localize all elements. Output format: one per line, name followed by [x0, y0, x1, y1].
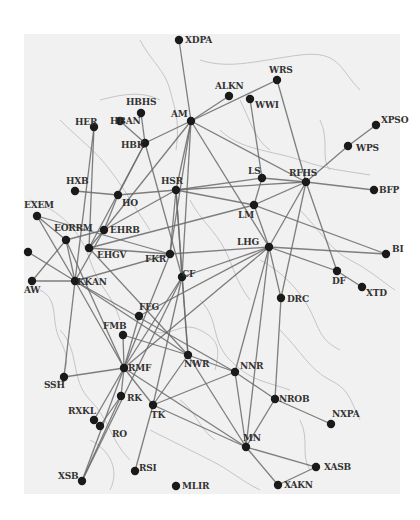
node-marker [265, 243, 273, 251]
node-label: ALKN [214, 81, 244, 91]
node-label: MN [243, 433, 261, 443]
node-label: RO [112, 429, 127, 439]
node-marker [184, 351, 192, 359]
node-marker [96, 422, 104, 430]
node-hban: HBAN [110, 116, 141, 126]
node-kkan: KKAN [71, 277, 107, 287]
node-unlabeled [24, 248, 32, 256]
node-bfp: BFP [370, 185, 400, 195]
node-marker [114, 191, 122, 199]
node-label: XDPA [185, 35, 213, 45]
node-label: HBHS [126, 97, 156, 107]
node-marker [242, 443, 250, 451]
node-label: XASB [324, 462, 352, 472]
node-marker [250, 201, 258, 209]
node-label: BFP [379, 185, 400, 195]
node-label: FKR [145, 254, 167, 264]
node-marker [85, 244, 93, 252]
node-marker [187, 117, 195, 125]
node-marker [372, 121, 380, 129]
node-label: HBK [121, 140, 146, 150]
node-marker [135, 312, 143, 320]
node-label: AW [23, 285, 41, 295]
node-label: DRC [287, 294, 309, 304]
node-label: SSH [44, 380, 65, 390]
network-diagram: XDPAAMALKNWWIWRSHBHSHBANHERHBKXPSOWPSRFH… [0, 0, 420, 520]
node-nrob: NROB [271, 394, 310, 404]
node-label: NXPA [332, 409, 361, 419]
node-label: HER [75, 117, 98, 127]
node-marker [231, 368, 239, 376]
node-label: NNR [240, 361, 264, 371]
node-label: RXKL [68, 406, 97, 416]
node-label: RK [127, 393, 143, 403]
node-label: DF [332, 276, 347, 286]
node-ehrb: EHRB [100, 225, 140, 235]
node-label: HSR [161, 176, 184, 186]
node-marker [277, 294, 285, 302]
node-marker [119, 331, 127, 339]
node-marker [271, 395, 279, 403]
node-label: KKAN [77, 277, 107, 287]
node-label: FMB [103, 321, 127, 331]
node-marker [172, 482, 180, 490]
node-marker [24, 248, 32, 256]
node-label: EXEM [24, 200, 54, 210]
node-label: XPSO [381, 115, 409, 125]
node-label: TK [151, 410, 166, 420]
node-marker [33, 212, 41, 220]
node-marker [175, 36, 183, 44]
node-label: XTD [366, 288, 387, 298]
node-label: EHGV [97, 250, 127, 260]
node-marker [274, 481, 282, 489]
node-marker [149, 401, 157, 409]
node-label: CF [182, 269, 196, 279]
node-label: HXB [66, 176, 89, 186]
node-marker [117, 392, 125, 400]
node-marker [302, 178, 310, 186]
node-marker [358, 283, 366, 291]
node-label: HO [122, 198, 138, 208]
node-mlir: MLIR [172, 481, 210, 491]
node-label: XSB [58, 471, 79, 481]
node-label: WPS [355, 143, 379, 153]
node-marker [333, 267, 341, 275]
node-label: AM [170, 109, 188, 119]
node-marker [28, 277, 36, 285]
node-marker [120, 364, 128, 372]
node-marker [246, 95, 254, 103]
node-marker [225, 92, 233, 100]
node-label: BI [392, 244, 403, 254]
node-label: NWR [184, 359, 210, 369]
node-label: NROB [279, 394, 310, 404]
node-label: EHRB [110, 225, 140, 235]
node-marker [273, 76, 281, 84]
node-xasb: XASB [312, 462, 352, 472]
node-xakn: XAKN [274, 480, 313, 490]
node-rmf: RMF [120, 363, 152, 373]
node-marker [312, 463, 320, 471]
node-label: LM [238, 210, 254, 220]
node-marker [327, 420, 335, 428]
node-label: RMF [128, 363, 152, 373]
node-marker [90, 416, 98, 424]
node-marker [382, 250, 390, 258]
node-label: WWI [254, 100, 279, 110]
node-marker [166, 250, 174, 258]
node-label: XAKN [284, 480, 313, 490]
node-marker [172, 186, 180, 194]
node-label: FFG [139, 302, 159, 312]
node-label: HBAN [110, 116, 141, 126]
node-label: RSI [139, 463, 157, 473]
node-marker [370, 186, 378, 194]
node-label: MLIR [182, 481, 210, 491]
node-marker [344, 142, 352, 150]
node-label: WRS [268, 65, 293, 75]
node-xdpa: XDPA [175, 35, 214, 45]
node-marker [131, 467, 139, 475]
node-marker [71, 187, 79, 195]
node-label: LHG [237, 237, 259, 247]
node-label: LS [248, 166, 260, 176]
node-marker [62, 236, 70, 244]
node-marker [100, 226, 108, 234]
